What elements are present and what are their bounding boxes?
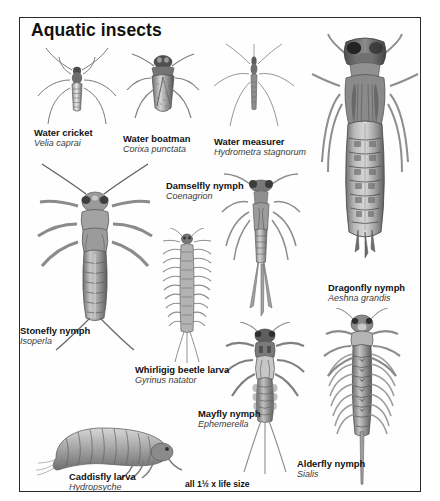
- common-name-caddisfly-larva: Caddisfly larva: [69, 471, 136, 482]
- figure-dragonfly-nymph: [310, 32, 420, 280]
- scale-note: all 1½ x life size: [185, 479, 250, 489]
- common-name-stonefly-nymph: Stonefly nymph: [20, 325, 90, 336]
- label-dragonfly-nymph: Dragonfly nymph Aeshna grandis: [328, 282, 405, 304]
- label-water-measurer: Water measurer Hydrometra stagnorum: [214, 136, 306, 158]
- label-stonefly-nymph: Stonefly nymph Isoperla: [20, 325, 90, 347]
- label-water-boatman: Water boatman Corixa punctata: [123, 133, 190, 155]
- common-name-whirligig-beetle-larva: Whirligig beetle larva: [135, 364, 229, 375]
- label-caddisfly-larva: Caddisfly larva Hydropsyche: [69, 471, 136, 493]
- common-name-water-boatman: Water boatman: [123, 133, 190, 144]
- page-title: Aquatic insects: [31, 20, 162, 41]
- scientific-name-alderfly-nymph: Sialis: [297, 469, 365, 480]
- common-name-mayfly-nymph: Mayfly nymph: [198, 408, 261, 419]
- common-name-alderfly-nymph: Alderfly nymph: [297, 458, 365, 469]
- figure-water-measurer: [208, 42, 300, 134]
- figure-water-boatman: [120, 48, 206, 132]
- common-name-damselfly-nymph: Damselfly nymph: [166, 180, 244, 191]
- scientific-name-mayfly-nymph: Ephemerella: [198, 419, 261, 430]
- label-mayfly-nymph: Mayfly nymph Ephemerella: [198, 408, 261, 430]
- label-whirligig-beetle-larva: Whirligig beetle larva Gyrinus natator: [135, 364, 229, 386]
- label-alderfly-nymph: Alderfly nymph Sialis: [297, 458, 365, 480]
- scientific-name-caddisfly-larva: Hydropsyche: [69, 482, 136, 493]
- illustration-plate: Aquatic insects: [0, 0, 440, 501]
- figure-water-cricket: [32, 44, 122, 132]
- label-damselfly-nymph: Damselfly nymph Coenagrion: [166, 180, 244, 202]
- common-name-water-measurer: Water measurer: [214, 136, 306, 147]
- label-water-cricket: Water cricket Velia caprai: [34, 127, 93, 149]
- scientific-name-water-boatman: Corixa punctata: [123, 144, 190, 155]
- common-name-water-cricket: Water cricket: [34, 127, 93, 138]
- scientific-name-water-measurer: Hydrometra stagnorum: [214, 147, 306, 158]
- scientific-name-damselfly-nymph: Coenagrion: [166, 191, 244, 202]
- figure-whirligig-beetle-larva: [160, 228, 214, 364]
- scientific-name-whirligig-beetle-larva: Gyrinus natator: [135, 375, 229, 386]
- scientific-name-stonefly-nymph: Isoperla: [20, 336, 90, 347]
- scientific-name-water-cricket: Velia caprai: [34, 138, 93, 149]
- common-name-dragonfly-nymph: Dragonfly nymph: [328, 282, 405, 293]
- scientific-name-dragonfly-nymph: Aeshna grandis: [328, 293, 405, 304]
- figure-mayfly-nymph: [222, 322, 308, 474]
- figure-stonefly-nymph: [28, 162, 162, 352]
